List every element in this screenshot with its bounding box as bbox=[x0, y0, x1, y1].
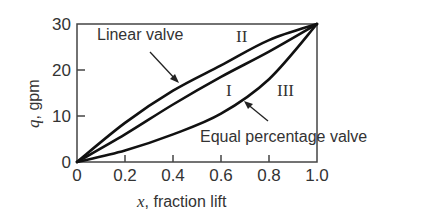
x-tick-label: 1.0 bbox=[305, 166, 329, 185]
curve-label-I: I bbox=[226, 81, 232, 100]
x-tick-labels: 00.20.40.60.81.0 bbox=[72, 166, 329, 185]
y-tick-label: 0 bbox=[62, 153, 71, 172]
curve-label-II: II bbox=[236, 27, 248, 46]
x-tick-label: 0.2 bbox=[113, 166, 137, 185]
equal-pct-valve-label: Equal percentage valve bbox=[200, 128, 367, 145]
valve-characteristics-chart: 00.20.40.60.81.0 0102030 Linear valve II… bbox=[0, 0, 425, 223]
axis-ticks bbox=[77, 70, 269, 162]
y-axis-label: q, gpm bbox=[24, 79, 43, 128]
x-tick-label: 0 bbox=[72, 166, 81, 185]
curve-label-III: III bbox=[277, 81, 294, 100]
x-tick-label: 0.6 bbox=[209, 166, 233, 185]
x-tick-label: 0.4 bbox=[161, 166, 185, 185]
y-tick-label: 10 bbox=[52, 107, 71, 126]
linear-valve-label: Linear valve bbox=[97, 26, 183, 43]
y-tick-label: 20 bbox=[52, 61, 71, 80]
y-tick-labels: 0102030 bbox=[52, 15, 71, 172]
x-axis-label: x, fraction lift bbox=[136, 192, 227, 211]
x-tick-label: 0.8 bbox=[257, 166, 281, 185]
y-tick-label: 30 bbox=[52, 15, 71, 34]
